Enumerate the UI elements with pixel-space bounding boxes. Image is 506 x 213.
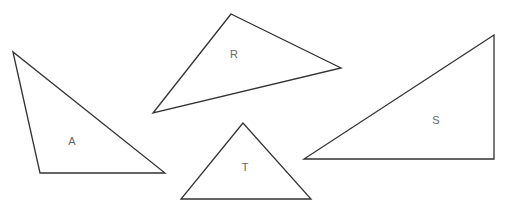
- triangle-r: R: [153, 14, 341, 113]
- triangle-r-shape: [153, 14, 341, 113]
- triangle-t: T: [181, 123, 311, 199]
- triangle-s-label: S: [432, 114, 439, 126]
- triangle-s: S: [304, 35, 494, 159]
- triangle-a-label: A: [68, 135, 76, 147]
- triangles-diagram: A R S T: [0, 0, 506, 213]
- triangle-s-shape: [304, 35, 494, 159]
- triangle-r-label: R: [230, 48, 238, 60]
- triangle-a-shape: [13, 52, 165, 173]
- triangle-t-label: T: [242, 161, 249, 173]
- triangle-a: A: [13, 52, 165, 173]
